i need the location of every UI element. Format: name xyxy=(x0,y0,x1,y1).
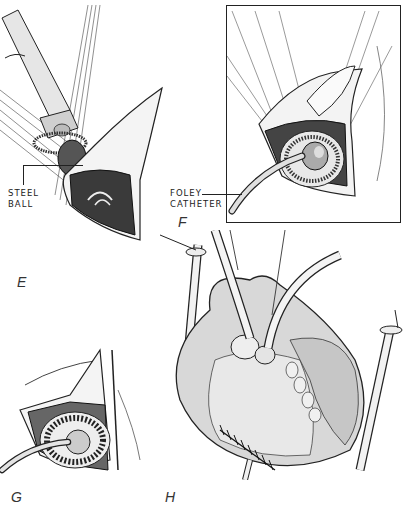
steel-ball-label-line-2: BALL xyxy=(8,199,39,210)
steel-ball-leader-line-horizontal xyxy=(23,165,83,166)
steel-ball-label-line-1: STEEL xyxy=(8,188,39,199)
foley-catheter-label: FOLEY CATHETER xyxy=(170,188,223,210)
steel-ball-leader-line xyxy=(23,165,24,185)
foley-catheter-label-line-1: FOLEY xyxy=(170,188,223,199)
panel-h-letter: H xyxy=(165,489,175,505)
panel-e-letter: E xyxy=(17,274,26,290)
steel-ball-label: STEEL BALL xyxy=(8,188,39,210)
panel-f-illustration xyxy=(226,5,401,223)
panel-g-letter: G xyxy=(11,489,22,505)
heart-with-cannulae-drawing xyxy=(160,230,406,480)
catheter-in-suture-ring-drawing xyxy=(0,330,160,480)
foley-catheter-drawing xyxy=(227,6,399,221)
foley-catheter-label-line-2: CATHETER xyxy=(170,199,223,210)
tube-insertion-drawing xyxy=(0,0,170,250)
panel-g-illustration xyxy=(0,330,160,480)
panel-e-illustration xyxy=(0,0,170,250)
panel-f-letter: F xyxy=(178,214,187,230)
panel-h-illustration xyxy=(160,230,406,480)
